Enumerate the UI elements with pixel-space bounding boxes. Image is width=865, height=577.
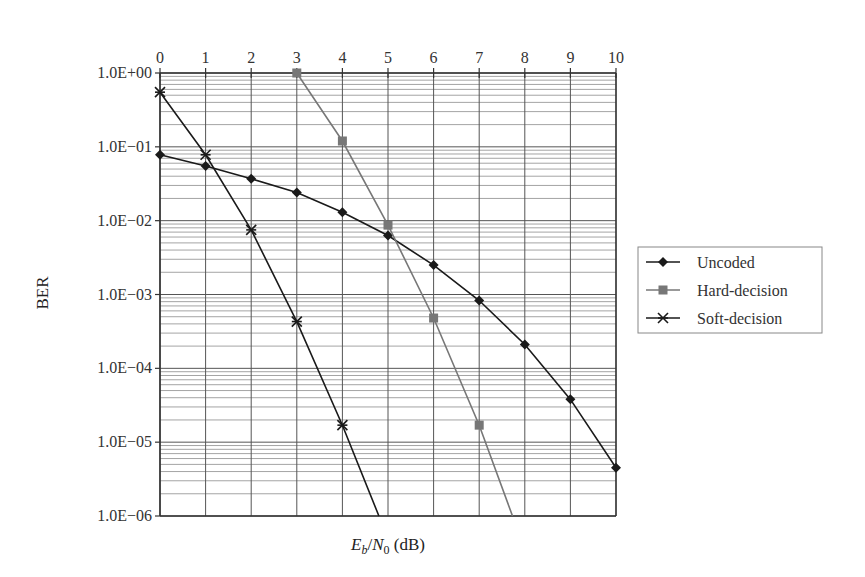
x-tick-label: 6 — [430, 49, 438, 66]
diamond-marker — [337, 207, 347, 217]
square-marker — [292, 69, 301, 78]
y-tick-label: 1.0E+00 — [97, 64, 152, 81]
y-tick-label: 1.0E−05 — [97, 433, 152, 450]
diamond-marker — [292, 188, 302, 198]
diamond-marker — [246, 174, 256, 184]
y-tick-label: 1.0E−02 — [97, 212, 152, 229]
axes — [155, 68, 616, 516]
square-marker — [338, 136, 347, 145]
legend-label: Hard-decision — [697, 282, 788, 299]
legend-label: Uncoded — [697, 254, 755, 271]
square-marker — [429, 314, 438, 323]
x-tick-label: 0 — [156, 49, 164, 66]
square-marker — [384, 221, 393, 230]
square-marker — [659, 286, 668, 295]
x-tick-label: 9 — [566, 49, 574, 66]
y-tick-labels: 1.0E+001.0E−011.0E−021.0E−031.0E−041.0E−… — [97, 64, 152, 524]
grid-lines — [160, 73, 616, 516]
square-marker — [475, 421, 484, 430]
ber-chart: 012345678910 1.0E+001.0E−011.0E−021.0E−0… — [0, 0, 865, 577]
x-tick-labels: 012345678910 — [156, 49, 624, 66]
x-tick-label: 8 — [521, 49, 529, 66]
y-tick-label: 1.0E−04 — [97, 359, 152, 376]
legend: UncodedHard-decisionSoft-decision — [638, 247, 822, 333]
legend-label: Soft-decision — [697, 310, 782, 327]
y-tick-label: 1.0E−01 — [97, 138, 152, 155]
y-tick-label: 1.0E−03 — [97, 286, 152, 303]
x-tick-label: 4 — [338, 49, 346, 66]
y-tick-label: 1.0E−06 — [97, 507, 152, 524]
y-axis-title: BER — [33, 276, 52, 310]
x-tick-label: 2 — [247, 49, 255, 66]
x-tick-label: 7 — [475, 49, 483, 66]
x-tick-label: 5 — [384, 49, 392, 66]
x-tick-label: 1 — [202, 49, 210, 66]
x-tick-label: 3 — [293, 49, 301, 66]
x-tick-label: 10 — [608, 49, 624, 66]
x-axis-title: Eb/N0 (dB) — [350, 535, 425, 557]
